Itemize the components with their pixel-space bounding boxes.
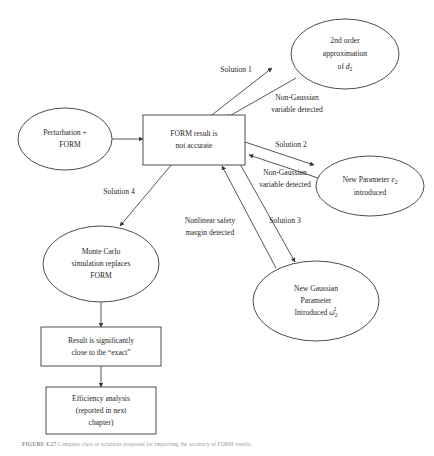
- node-monte-carlo[interactable]: Monte Carlo simulation replaces FORM: [43, 226, 159, 302]
- figure-caption-label: FIGURE 4.27: [22, 441, 56, 447]
- figure-container: Perturbation + FORM FORM result is not a…: [0, 0, 434, 456]
- edge-label-nonlinear-line2: margin detected: [186, 228, 235, 237]
- new-gaussian-subscript: 2: [335, 312, 338, 318]
- new-gaussian-line3-prefix: Introduced: [295, 308, 330, 317]
- node-new-gaussian[interactable]: New Gaussian Parameter Introduced ω22: [253, 261, 379, 341]
- new-gaussian-line1: New Gaussian: [294, 284, 338, 293]
- node-result-close[interactable]: Result is significantly close to the “ex…: [41, 327, 161, 366]
- new-parameter-subscript: 2: [395, 179, 398, 185]
- flowchart-diagram: Perturbation + FORM FORM result is not a…: [0, 0, 434, 456]
- monte-carlo-line1: Monte Carlo: [82, 247, 121, 256]
- new-gaussian-superscript: 2: [333, 306, 336, 312]
- second-order-line1: 2nd order: [330, 36, 360, 45]
- node-perturbation-form[interactable]: Perturbation + FORM: [18, 108, 112, 170]
- new-parameter-line2: introduced: [354, 188, 387, 197]
- new-gaussian-line2: Parameter: [301, 296, 332, 305]
- edge-form-to-new-gaussian: [240, 164, 295, 262]
- edge-label-solution-4: Solution 4: [103, 187, 135, 196]
- figure-caption: FIGURE 4.27 Complete class of solutions …: [22, 441, 422, 449]
- figure-caption-text: Complete class of solutions proposed for…: [58, 441, 252, 447]
- edge-label-solution-3: Solution 3: [269, 216, 301, 225]
- edge-label-non-gaussian-2-line2: variable detected: [259, 180, 311, 189]
- efficiency-line3: chapter): [89, 418, 114, 427]
- node-second-order[interactable]: 2nd order approximation of d2: [291, 19, 399, 89]
- new-parameter-line1: New Parameter e2: [342, 175, 397, 186]
- edge-label-non-gaussian-1-line2: variable detected: [271, 105, 323, 114]
- result-close-line2: close to the “exact”: [71, 348, 130, 357]
- edge-label-solution-1: Solution 1: [220, 65, 252, 74]
- node-new-parameter[interactable]: New Parameter e2 introduced: [316, 156, 424, 216]
- form-result-line1: FORM result is: [170, 129, 217, 138]
- new-parameter-line1-prefix: New Parameter: [342, 175, 391, 184]
- new-gaussian-line3: Introduced ω22: [295, 306, 338, 318]
- edge-label-solution-2: Solution 2: [275, 140, 307, 149]
- result-close-box[interactable]: [41, 327, 161, 366]
- monte-carlo-line3: FORM: [90, 271, 112, 280]
- efficiency-line2: (reported in next: [76, 406, 127, 415]
- second-order-subscript: 2: [350, 66, 353, 72]
- edge-label-non-gaussian-1-line1: Non-Gaussian: [275, 93, 319, 102]
- edge-label-non-gaussian-2-line1: Non-Gaussian: [263, 168, 307, 177]
- efficiency-line1: Efficiency analysis: [72, 394, 130, 403]
- second-order-line3-prefix: of: [338, 62, 346, 71]
- new-parameter-ellipse[interactable]: [316, 156, 424, 216]
- perturbation-form-line2: FORM: [59, 140, 81, 149]
- form-result-line2: not accurate: [176, 141, 214, 150]
- monte-carlo-line2: simulation replaces: [72, 259, 131, 268]
- result-close-line1: Result is significantly: [68, 336, 134, 345]
- perturbation-form-line1: Perturbation +: [43, 128, 87, 137]
- edge-label-nonlinear-line1: Nonlinear safety: [185, 216, 236, 225]
- node-efficiency[interactable]: Efficiency analysis (reported in next ch…: [46, 387, 156, 434]
- edge-form-to-second-order: [208, 68, 272, 118]
- second-order-line2: approximation: [323, 49, 367, 58]
- node-form-result[interactable]: FORM result is not accurate: [143, 115, 245, 165]
